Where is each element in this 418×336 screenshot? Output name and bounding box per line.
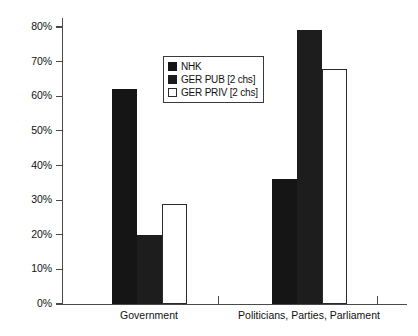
y-axis-tick-label: 50% <box>6 124 52 136</box>
legend-item: NHK <box>168 60 258 73</box>
legend-swatch-icon <box>168 75 177 84</box>
legend-item-label: NHK <box>181 61 202 72</box>
y-axis-tick-label: 0% <box>6 297 52 309</box>
y-axis-tick <box>56 130 63 131</box>
x-axis-separator <box>377 296 378 305</box>
y-axis-tick-label: 60% <box>6 89 52 101</box>
y-axis-tick-label: 10% <box>6 262 52 274</box>
y-axis-tick <box>56 165 63 166</box>
bar-chart: 0%10%20%30%40%50%60%70%80% GovernmentPol… <box>0 0 418 336</box>
bar <box>322 69 347 304</box>
y-axis-tick <box>56 26 63 27</box>
y-axis-tick-label: 70% <box>6 55 52 67</box>
legend-item-label: GER PUB [2 chs] <box>181 74 255 85</box>
x-axis-line <box>62 304 407 305</box>
y-axis-tick-label: 30% <box>6 193 52 205</box>
legend-item-label: GER PRIV [2 chs] <box>181 87 258 98</box>
legend-item: GER PUB [2 chs] <box>168 73 258 86</box>
y-axis-tick <box>56 303 63 304</box>
y-axis-tick-label: 40% <box>6 159 52 171</box>
y-axis-tick <box>56 61 63 62</box>
bar <box>162 204 187 304</box>
y-axis-tick <box>56 234 63 235</box>
y-axis-tick-label: 80% <box>6 20 52 32</box>
chart-legend: NHKGER PUB [2 chs]GER PRIV [2 chs] <box>163 56 264 103</box>
x-axis-category-label: Politicians, Parties, Parliament <box>209 309 409 321</box>
bar <box>137 235 162 304</box>
x-axis-separator <box>218 296 219 305</box>
bar <box>297 30 322 304</box>
y-axis-tick <box>56 200 63 201</box>
legend-swatch-icon <box>168 88 177 97</box>
y-axis-tick <box>56 96 63 97</box>
bar <box>112 89 137 304</box>
legend-swatch-icon <box>168 62 177 71</box>
legend-item: GER PRIV [2 chs] <box>168 86 258 99</box>
y-axis-tick <box>56 269 63 270</box>
bar <box>272 179 297 304</box>
y-axis-tick-label: 20% <box>6 228 52 240</box>
